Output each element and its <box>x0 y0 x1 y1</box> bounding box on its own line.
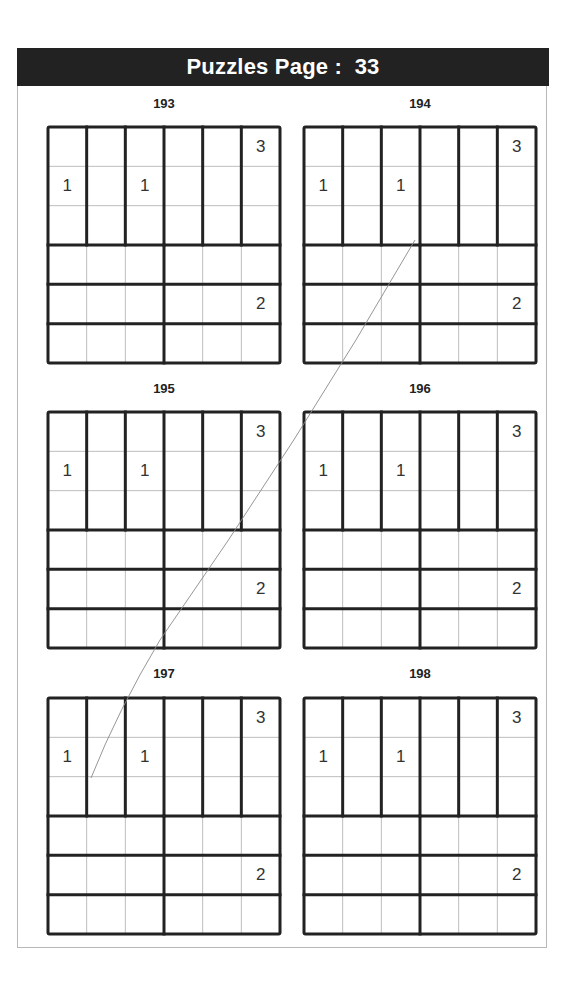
clue-cell: 3 <box>497 412 536 451</box>
clue-cell: 1 <box>125 166 164 205</box>
clue-cell: 2 <box>241 569 280 608</box>
puzzle-grid[interactable]: 3112 <box>304 127 536 363</box>
clue-cell: 1 <box>304 451 343 490</box>
clue-cell: 1 <box>381 166 420 205</box>
clue-cell: 1 <box>304 737 343 776</box>
page-number: 33 <box>355 54 380 80</box>
puzzle-grid[interactable]: 3112 <box>48 698 280 934</box>
clue-cell: 1 <box>304 166 343 205</box>
puzzle-number-label: 195 <box>48 381 280 396</box>
puzzle-grid[interactable]: 3112 <box>304 698 536 934</box>
puzzle-grid[interactable]: 3112 <box>48 127 280 363</box>
title-separator: : <box>328 54 354 80</box>
clue-cell: 3 <box>497 698 536 737</box>
clue-cell: 1 <box>381 737 420 776</box>
clue-cell: 1 <box>125 451 164 490</box>
puzzle-number-label: 194 <box>304 96 536 111</box>
puzzle-number-label: 196 <box>304 381 536 396</box>
clue-cell: 1 <box>381 451 420 490</box>
clue-cell: 1 <box>48 166 87 205</box>
clue-cell: 1 <box>48 451 87 490</box>
clue-cell: 2 <box>241 855 280 894</box>
page-header: Puzzles Page : 33 <box>17 48 549 86</box>
clue-cell: 3 <box>241 412 280 451</box>
clue-cell: 2 <box>497 855 536 894</box>
puzzle-number-label: 193 <box>48 96 280 111</box>
clue-cell: 1 <box>125 737 164 776</box>
page-title: Puzzles Page <box>186 54 328 80</box>
clue-cell: 2 <box>497 284 536 323</box>
puzzle-number-label: 197 <box>48 666 280 681</box>
puzzle-number-label: 198 <box>304 666 536 681</box>
clue-cell: 3 <box>497 127 536 166</box>
clue-cell: 3 <box>241 127 280 166</box>
puzzle-grid[interactable]: 3112 <box>304 412 536 648</box>
clue-cell: 3 <box>241 698 280 737</box>
puzzle-grid[interactable]: 3112 <box>48 412 280 648</box>
clue-cell: 2 <box>497 569 536 608</box>
clue-cell: 1 <box>48 737 87 776</box>
clue-cell: 2 <box>241 284 280 323</box>
